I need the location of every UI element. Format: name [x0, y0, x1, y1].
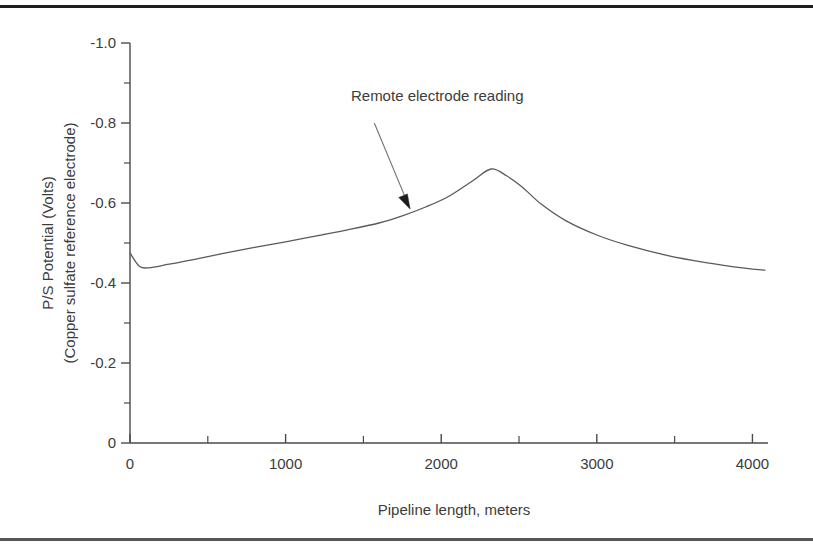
x-axis-major-ticks — [130, 434, 752, 443]
annotation-leader-line — [374, 123, 404, 195]
x-tick-label-2: 2000 — [425, 455, 458, 472]
y-tick-label-3: -0.6 — [90, 194, 116, 211]
y-tick-label-0: 0 — [108, 434, 116, 451]
line-chart-svg: 0-0.2-0.4-0.6-0.8-1.0 01000200030004000 … — [0, 8, 813, 538]
y-axis-title-line1: P/S Potential (Volts) — [39, 176, 56, 309]
bottom-rule-divider — [0, 538, 813, 541]
x-tick-label-1: 1000 — [269, 455, 302, 472]
series-group — [130, 169, 765, 270]
x-tick-label-4: 4000 — [736, 455, 769, 472]
x-tick-label-0: 0 — [126, 455, 134, 472]
annotation-group: Remote electrode reading — [351, 87, 524, 209]
x-tick-label-3: 3000 — [580, 455, 613, 472]
remote-electrode-reading-curve — [130, 169, 765, 270]
annotation-arrow-head-icon — [399, 194, 410, 209]
figure-page: 0-0.2-0.4-0.6-0.8-1.0 01000200030004000 … — [0, 0, 813, 549]
x-axis-tick-labels: 01000200030004000 — [126, 455, 769, 472]
y-axis-title-line2: (Copper sulfate reference electrode) — [61, 123, 78, 364]
y-tick-label-4: -0.8 — [90, 114, 116, 131]
annotation-label: Remote electrode reading — [351, 87, 524, 104]
y-axis-minor-ticks — [124, 83, 130, 403]
x-axis-title: Pipeline length, meters — [378, 501, 531, 518]
y-tick-label-1: -0.2 — [90, 354, 116, 371]
y-tick-label-2: -0.4 — [90, 274, 116, 291]
chart-figure: 0-0.2-0.4-0.6-0.8-1.0 01000200030004000 … — [0, 8, 813, 538]
y-tick-label-5: -1.0 — [90, 34, 116, 51]
y-axis-tick-labels: 0-0.2-0.4-0.6-0.8-1.0 — [90, 34, 116, 451]
